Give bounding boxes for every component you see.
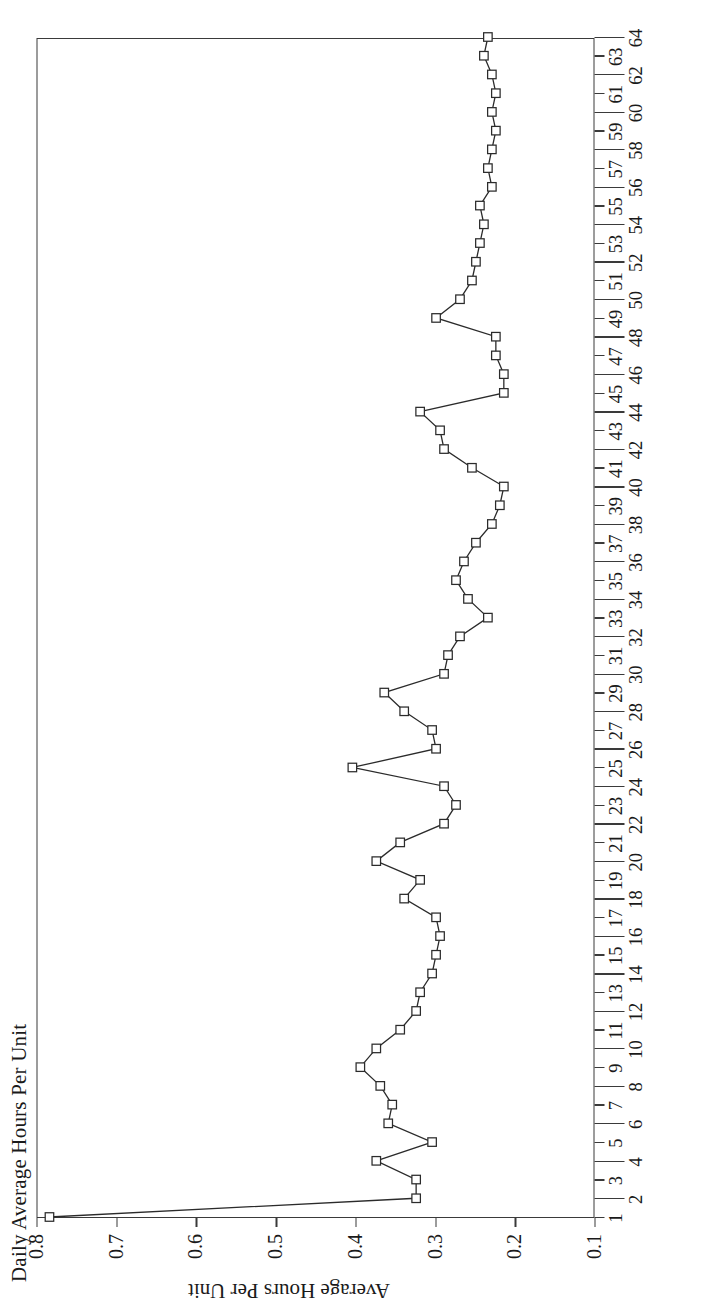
data-point-marker [483,613,492,622]
x-tick-label: 49 [605,310,626,329]
data-point-marker [427,1138,436,1147]
x-tick-mark [594,1067,604,1068]
x-tick-mark [594,861,624,862]
data-point-marker [455,632,464,641]
x-tick-mark [594,655,604,656]
y-tick-label: 0.5 [263,1234,286,1259]
data-point-marker [463,595,472,604]
x-tick-mark [594,1161,624,1162]
x-tick-label: 46 [625,366,646,385]
x-tick-mark [594,261,624,262]
data-point-marker [475,239,484,248]
x-tick-label: 34 [625,591,646,610]
data-point-marker [491,89,500,98]
data-point-marker [479,51,488,60]
data-point-marker [467,464,476,473]
x-tick-mark [594,786,624,787]
x-tick-mark [594,205,604,206]
x-tick-label: 4 [625,1157,646,1166]
x-tick-mark [594,1104,604,1105]
x-tick-mark [594,1217,604,1218]
data-point-marker [451,801,460,810]
plot-area [36,38,594,1218]
x-tick-label: 27 [605,722,626,741]
x-tick-label: 58 [625,141,646,160]
data-point-marker [427,969,436,978]
x-tick-mark [594,823,624,824]
x-tick-label: 32 [625,628,646,647]
x-tick-label: 54 [625,216,646,235]
x-tick-label: 31 [605,647,626,666]
x-tick-label: 40 [625,478,646,497]
y-tick-mark [116,1218,117,1227]
x-tick-mark [594,617,604,618]
data-point-marker [499,482,508,491]
x-tick-label: 14 [625,965,646,984]
x-tick-mark [594,449,624,450]
x-tick-mark [594,468,604,469]
data-point-marker [376,1082,385,1091]
data-point-marker [443,651,452,660]
x-tick-mark [594,805,604,806]
x-tick-mark [594,430,604,431]
x-tick-label: 42 [625,441,646,460]
chart-figure: Daily Average Hours Per Unit Average Hou… [0,0,719,1308]
y-tick-mark [275,1218,276,1227]
x-tick-mark [594,767,604,768]
x-tick-label: 24 [625,778,646,797]
x-tick-mark [594,243,604,244]
x-tick-label: 61 [605,85,626,104]
y-tick-label: 0.1 [582,1234,605,1259]
data-point-marker [467,276,476,285]
data-point-marker [439,782,448,791]
data-point-marker [431,745,440,754]
data-point-marker [487,108,496,117]
x-tick-mark [594,730,604,731]
x-tick-label: 2 [625,1195,646,1204]
x-tick-label: 37 [605,534,626,553]
data-point-marker [415,876,424,885]
data-point-marker [459,557,468,566]
x-tick-mark [594,411,624,412]
data-point-marker [451,576,460,585]
data-point-marker [487,70,496,79]
x-tick-label: 48 [625,328,646,347]
x-tick-label: 52 [625,254,646,273]
y-axis-title: Average Hours Per Unit [9,1278,569,1303]
x-tick-label: 10 [625,1040,646,1059]
x-tick-label: 59 [605,122,626,141]
x-tick-mark [594,542,604,543]
x-tick-mark [594,505,604,506]
x-tick-label: 44 [625,403,646,422]
y-tick-mark [514,1218,515,1227]
x-tick-label: 64 [625,29,646,48]
y-tick-mark [594,1218,595,1227]
x-tick-mark [594,187,624,188]
data-point-marker [439,819,448,828]
data-point-marker [471,258,480,267]
x-tick-mark [594,1086,624,1087]
data-point-marker [348,763,357,772]
x-tick-label: 50 [625,291,646,310]
x-tick-mark [594,1011,624,1012]
x-tick-mark [594,355,604,356]
data-point-marker [475,201,484,210]
x-tick-mark [594,880,604,881]
y-tick-label: 0.8 [24,1234,47,1259]
data-point-marker [411,1007,420,1016]
y-tick-label: 0.3 [423,1234,446,1259]
x-tick-label: 12 [625,1003,646,1022]
y-tick-mark [36,1218,37,1227]
x-tick-mark [594,74,624,75]
x-tick-label: 51 [605,272,626,291]
data-point-marker [380,688,389,697]
x-tick-label: 29 [605,684,626,703]
data-point-marker [491,126,500,135]
x-tick-mark [594,992,604,993]
data-point-marker [499,370,508,379]
data-point-marker [439,445,448,454]
x-tick-mark [594,898,624,899]
x-tick-mark [594,1198,624,1199]
y-tick-label: 0.4 [343,1234,366,1259]
page-title: Daily Average Hours Per Unit [6,0,31,1308]
